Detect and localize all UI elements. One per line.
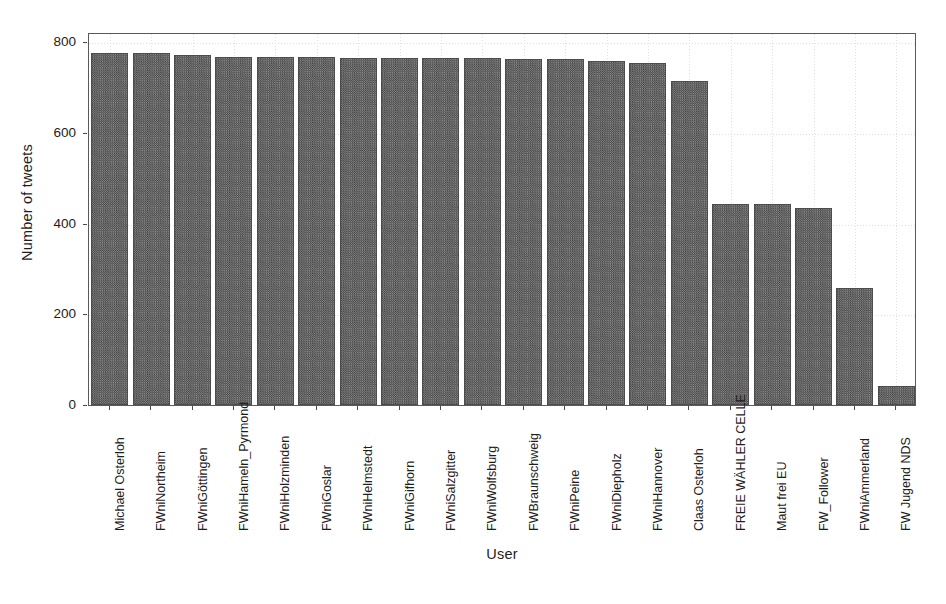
bar[interactable] (464, 58, 501, 405)
gridline-horizontal (89, 134, 915, 135)
x-tick-label: FREIE WÄHLER CELLE (735, 394, 748, 531)
x-tick-mark (316, 406, 317, 410)
x-tick-label: FWniPeine (569, 470, 582, 531)
y-axis-title: Number of tweets (14, 0, 40, 405)
x-tick-mark (192, 406, 193, 410)
gridline-horizontal (89, 225, 915, 226)
x-tick-mark (481, 406, 482, 410)
x-tick-label: Claas Osterloh (693, 448, 706, 531)
y-tick-mark (83, 224, 87, 225)
bar[interactable] (712, 204, 749, 405)
x-tick-label: Michael Osterloh (114, 437, 127, 531)
x-tick-label: FWniSalzgitter (445, 450, 458, 531)
bar[interactable] (795, 208, 832, 405)
x-tick-label: FWniHameln_Pyrmond (238, 402, 251, 531)
bar[interactable] (133, 53, 170, 405)
x-tick-label: FWBraunschweig (528, 433, 541, 531)
x-tick-mark (274, 406, 275, 410)
gridline-vertical (896, 34, 897, 405)
x-tick-mark (399, 406, 400, 410)
bar[interactable] (91, 53, 128, 405)
x-tick-mark (647, 406, 648, 410)
x-tick-mark (233, 406, 234, 410)
gridline-horizontal (89, 43, 915, 44)
x-tick-mark (523, 406, 524, 410)
x-tick-label: FWniGöttingen (197, 448, 210, 531)
x-tick-label: FWniHolzminden (279, 436, 292, 531)
x-tick-mark (109, 406, 110, 410)
bar[interactable] (505, 59, 542, 405)
bar[interactable] (381, 58, 418, 405)
x-tick-mark (688, 406, 689, 410)
x-tick-label: FW Jugend NDS (900, 437, 913, 531)
gridline-horizontal (89, 315, 915, 316)
x-tick-label: FWniAmmerland (859, 438, 872, 531)
bar[interactable] (215, 57, 252, 405)
y-tick-label: 200 (40, 307, 76, 320)
x-tick-label: FWniDiepholz (611, 453, 624, 531)
x-tick-label: FWniGifhorn (404, 461, 417, 531)
x-tick-mark (895, 406, 896, 410)
bar[interactable] (671, 81, 708, 405)
x-tick-label: FW_Follower (818, 457, 831, 531)
y-tick-label: 800 (40, 35, 76, 48)
bar[interactable] (340, 58, 377, 405)
y-tick-mark (83, 42, 87, 43)
y-tick-label: 0 (40, 398, 76, 411)
x-tick-mark (854, 406, 855, 410)
x-tick-mark (564, 406, 565, 410)
x-axis-title: User (88, 546, 916, 562)
bar[interactable] (754, 204, 791, 405)
bar[interactable] (257, 57, 294, 405)
y-tick-label: 400 (40, 217, 76, 230)
x-tick-mark (440, 406, 441, 410)
bar[interactable] (878, 386, 915, 405)
bar[interactable] (547, 59, 584, 405)
bar[interactable] (588, 61, 625, 405)
x-tick-label: FWniNortheim (155, 451, 168, 531)
bar[interactable] (298, 57, 335, 405)
x-tick-mark (730, 406, 731, 410)
y-tick-label: 600 (40, 126, 76, 139)
x-tick-label: FWniWolfsburg (486, 446, 499, 531)
x-tick-mark (771, 406, 772, 410)
x-tick-label: Maut frei EU (776, 462, 789, 531)
bar[interactable] (174, 55, 211, 405)
bar-chart-figure: Number of tweets 0200400600800 Michael O… (0, 0, 946, 604)
x-tick-label: FWniHelmstedt (362, 446, 375, 531)
x-tick-mark (150, 406, 151, 410)
plot-panel (88, 33, 916, 406)
x-tick-mark (606, 406, 607, 410)
bar[interactable] (629, 63, 666, 405)
x-tick-label: FWniGoslar (321, 465, 334, 531)
x-tick-label: FWniHannover (652, 448, 665, 531)
y-tick-mark (83, 314, 87, 315)
y-tick-mark (83, 133, 87, 134)
x-tick-mark (357, 406, 358, 410)
bar[interactable] (836, 288, 873, 405)
x-tick-mark (813, 406, 814, 410)
bar[interactable] (422, 58, 459, 405)
y-tick-mark (83, 405, 87, 406)
